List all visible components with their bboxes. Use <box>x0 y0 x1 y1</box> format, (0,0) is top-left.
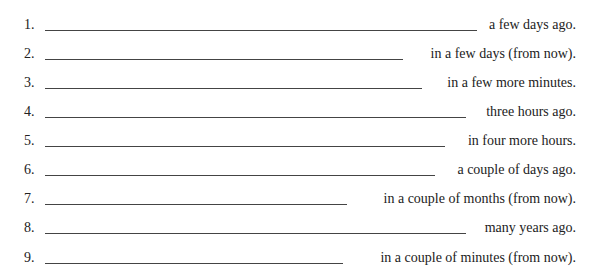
item-number: 8. <box>24 218 35 238</box>
answer-blank[interactable] <box>45 233 466 234</box>
exercise-item: 9. in a couple of minutes (from now). <box>0 248 601 268</box>
answer-blank[interactable] <box>45 204 347 205</box>
answer-blank[interactable] <box>45 175 435 176</box>
item-phrase: in a few days (from now). <box>431 44 576 64</box>
exercise-item: 5. in four more hours. <box>0 131 601 151</box>
item-number: 3. <box>24 73 35 93</box>
exercise-item: 1. a few days ago. <box>0 15 601 35</box>
answer-blank[interactable] <box>45 30 477 31</box>
item-number: 2. <box>24 44 35 64</box>
exercise-item: 7. in a couple of months (from now). <box>0 189 601 209</box>
exercise-item: 8. many years ago. <box>0 218 601 238</box>
item-phrase: a couple of days ago. <box>457 160 576 180</box>
item-phrase: a few days ago. <box>489 15 576 35</box>
answer-blank[interactable] <box>45 146 445 147</box>
item-number: 7. <box>24 189 35 209</box>
exercise-item: 4. three hours ago. <box>0 102 601 122</box>
item-phrase: in a couple of months (from now). <box>384 189 576 209</box>
item-number: 5. <box>24 131 35 151</box>
item-number: 6. <box>24 160 35 180</box>
item-phrase: in four more hours. <box>468 131 576 151</box>
answer-blank[interactable] <box>45 88 422 89</box>
exercise-item: 3. in a few more minutes. <box>0 73 601 93</box>
item-number: 9. <box>24 248 35 268</box>
answer-blank[interactable] <box>45 59 403 60</box>
item-phrase: in a couple of minutes (from now). <box>380 248 576 268</box>
item-phrase: many years ago. <box>485 218 576 238</box>
answer-blank[interactable] <box>45 117 466 118</box>
answer-blank[interactable] <box>45 263 343 264</box>
exercise-item: 2. in a few days (from now). <box>0 44 601 64</box>
item-number: 4. <box>24 102 35 122</box>
item-phrase: in a few more minutes. <box>447 73 576 93</box>
item-number: 1. <box>24 15 35 35</box>
exercise-item: 6. a couple of days ago. <box>0 160 601 180</box>
item-phrase: three hours ago. <box>486 102 576 122</box>
